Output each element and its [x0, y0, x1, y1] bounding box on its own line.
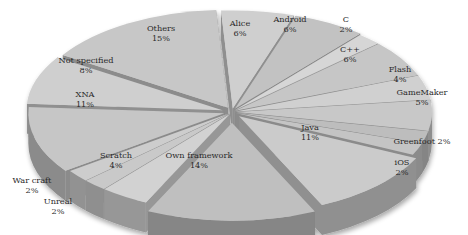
slice-label-ios: iOS2%: [395, 157, 410, 177]
slice-label-greenfoot: Greenfoot 2%: [393, 136, 450, 146]
slice-label-xna: XNA11%: [76, 89, 95, 109]
pie-chart: Alice6%Android6%C2%C++6%Flash4%GameMaker…: [0, 0, 468, 235]
slice-label-war-craft: War craft2%: [13, 175, 53, 195]
slice-label-java: Java11%: [300, 122, 319, 142]
pie-slices: [27, 10, 432, 235]
slice-label-c: C2%: [340, 14, 353, 34]
slice-label-unreal: Unreal2%: [44, 196, 73, 216]
